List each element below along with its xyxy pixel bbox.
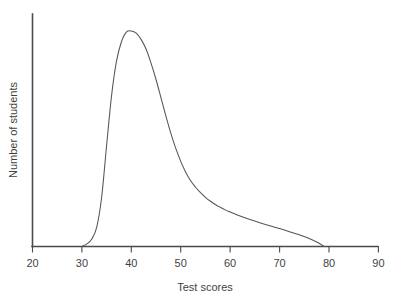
x-axis-ticks xyxy=(33,247,379,253)
chart-plot-area: 20 30 40 50 60 70 80 90 Test scores Numb… xyxy=(0,0,402,302)
chart-figure: 20 30 40 50 60 70 80 90 Test scores Numb… xyxy=(0,0,402,302)
x-tick-label-1: 30 xyxy=(76,257,88,269)
x-axis-title: Test scores xyxy=(177,281,233,293)
x-tick-label-6: 80 xyxy=(323,257,335,269)
distribution-curve xyxy=(82,31,324,247)
y-axis-title: Number of students xyxy=(7,82,19,178)
x-tick-label-0: 20 xyxy=(26,257,38,269)
x-tick-label-2: 40 xyxy=(125,257,137,269)
x-tick-label-4: 60 xyxy=(224,257,236,269)
x-tick-label-5: 70 xyxy=(273,257,285,269)
x-tick-label-3: 50 xyxy=(175,257,187,269)
x-tick-label-7: 90 xyxy=(372,257,384,269)
x-axis-tick-labels: 20 30 40 50 60 70 80 90 xyxy=(26,257,384,269)
